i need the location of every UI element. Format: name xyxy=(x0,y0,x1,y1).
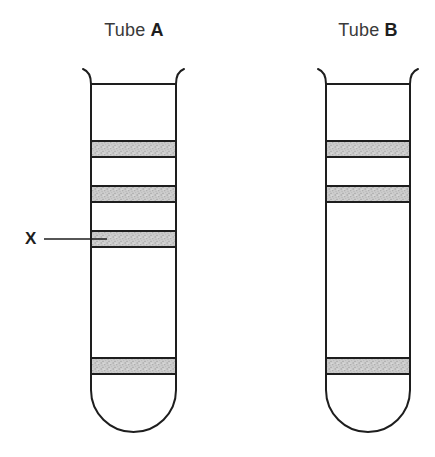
tube-b-band-1 xyxy=(326,141,410,157)
tube-a-group xyxy=(83,69,184,432)
tube-a-band-4 xyxy=(91,358,176,374)
tube-a-band-2 xyxy=(91,186,176,202)
tubes-svg xyxy=(0,0,435,457)
tubes-layer xyxy=(83,69,418,432)
tube-b-group xyxy=(318,69,418,432)
tube-b-outline xyxy=(318,69,418,432)
tube-a-outline xyxy=(83,69,184,432)
centrifuge-tubes-diagram: Tube A Tube B X xyxy=(0,0,435,457)
tube-b-band-3 xyxy=(326,358,410,374)
tube-b-band-2 xyxy=(326,186,410,202)
tube-a-band-1 xyxy=(91,141,176,157)
